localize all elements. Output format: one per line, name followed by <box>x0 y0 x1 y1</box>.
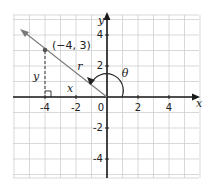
x-tick-label: -4 <box>40 102 50 113</box>
y-axis-arrow-icon <box>104 12 111 20</box>
angle-label: θ <box>122 67 129 80</box>
point-label: (−4, 3) <box>52 39 91 52</box>
coordinate-plane: -4 -2 0 2 4 4 2 -2 -4 x y (−4, 3) r x y … <box>0 0 209 188</box>
vertical-leg-label: y <box>32 70 40 83</box>
y-tick-label: -2 <box>93 122 103 133</box>
x-tick-label: 4 <box>166 102 172 113</box>
ray-arrow-icon <box>20 29 29 37</box>
y-axis-label: y <box>97 14 105 27</box>
radius-label: r <box>77 60 83 73</box>
arc-arrow-icon <box>87 77 95 85</box>
y-tick-label: 2 <box>97 60 103 71</box>
point-marker <box>43 48 48 53</box>
x-tick-label: -2 <box>71 102 81 113</box>
y-tick-label: -4 <box>93 153 103 164</box>
right-angle-marker <box>45 91 51 97</box>
x-tick-label: 2 <box>135 102 141 113</box>
y-tick-label: 4 <box>97 29 103 40</box>
x-axis-label: x <box>196 97 203 110</box>
origin-label: 0 <box>98 102 104 113</box>
horizontal-leg-label: x <box>67 82 74 95</box>
